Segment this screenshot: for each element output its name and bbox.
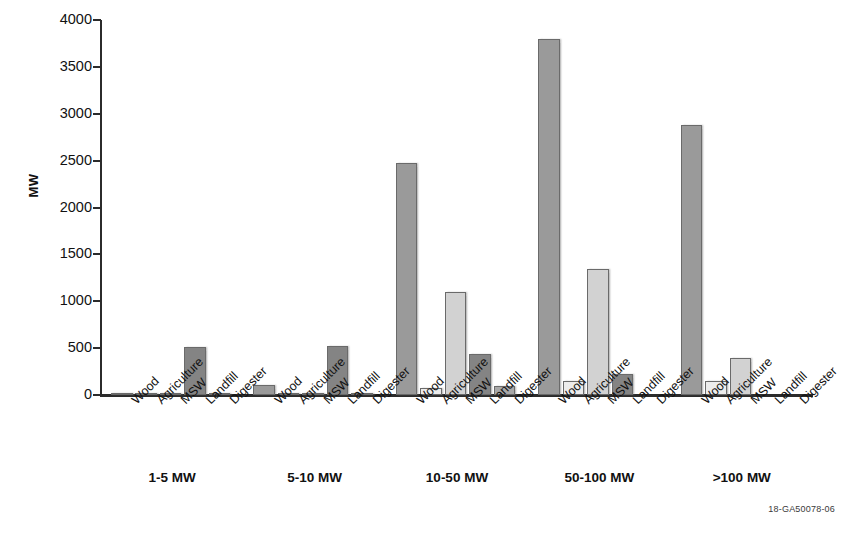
y-axis-tick-label: 3000	[40, 105, 92, 121]
y-axis-tick-label: 2000	[40, 199, 92, 215]
group-label-10-50-mw: 10-50 MW	[426, 470, 488, 485]
bar-group	[528, 20, 670, 395]
group-label-5-10-mw: 5-10 MW	[287, 470, 342, 485]
bar-wood	[538, 39, 560, 395]
bar-group	[243, 20, 385, 395]
y-axis-title: MW	[26, 171, 41, 201]
plot-bars-layer	[101, 20, 813, 395]
y-axis-tick-mark	[93, 66, 101, 68]
bar-group	[101, 20, 243, 395]
bar-group	[671, 20, 813, 395]
bar-wood	[681, 125, 703, 395]
y-axis-tick-mark	[93, 160, 101, 162]
y-axis-tick-mark	[93, 253, 101, 255]
x-axis-series-labels: WoodAgricultureMSWLandfillDigesterWoodAg…	[101, 397, 813, 469]
figure-id-text: 18-GA50078-06	[768, 504, 835, 514]
x-axis-group-labels: 1-5 MW5-10 MW10-50 MW50-100 MW>100 MW	[101, 470, 813, 492]
y-axis-tick-mark	[93, 19, 101, 21]
y-axis-tick-mark	[93, 394, 101, 396]
bar-group	[386, 20, 528, 395]
bar-chart-figure: MW 05001000150020002500300035004000 Wood…	[0, 0, 843, 544]
y-axis-tick-mark	[93, 113, 101, 115]
y-axis-tick-mark	[93, 207, 101, 209]
y-axis-tick-label: 4000	[40, 11, 92, 27]
y-axis-tick-label: 500	[40, 339, 92, 355]
y-axis-tick-label: 3500	[40, 58, 92, 74]
y-axis-tick-label: 1500	[40, 245, 92, 261]
y-axis-tick-mark	[93, 347, 101, 349]
group-label-1-5-mw: 1-5 MW	[149, 470, 196, 485]
bar-wood	[111, 393, 133, 395]
group-label-50-100-mw: 50-100 MW	[565, 470, 635, 485]
y-axis-tick-label: 2500	[40, 152, 92, 168]
y-axis-tick-label: 0	[40, 386, 92, 402]
bar-wood	[396, 163, 418, 396]
y-axis-tick-label: 1000	[40, 292, 92, 308]
y-axis-tick-mark	[93, 300, 101, 302]
group-label--100-mw: >100 MW	[713, 470, 771, 485]
